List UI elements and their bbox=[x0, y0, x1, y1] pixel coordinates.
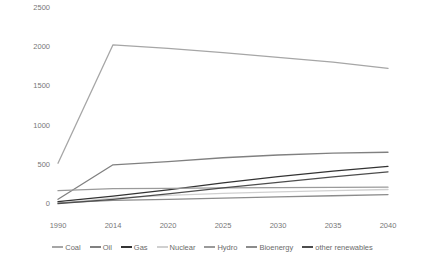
legend-item-label: Gas bbox=[134, 243, 148, 252]
line-chart: 05001000150020002500 1990201420202025203… bbox=[0, 0, 425, 262]
x-axis-tick-label: 2014 bbox=[105, 222, 122, 230]
x-axis-tick-label: 2020 bbox=[160, 222, 177, 230]
legend-item-label: Bioenergy bbox=[259, 243, 293, 252]
y-axis-tick-label: 500 bbox=[37, 161, 50, 169]
series-lines bbox=[58, 8, 388, 204]
legend-item-label: Coal bbox=[65, 243, 80, 252]
series-line-coal bbox=[58, 45, 388, 163]
legend-swatch-icon bbox=[121, 246, 132, 248]
legend-item-label: Hydro bbox=[217, 243, 237, 252]
legend-swatch-icon bbox=[204, 246, 215, 248]
x-axis-tick-label: 2035 bbox=[325, 222, 342, 230]
x-axis-tick-label: 2040 bbox=[380, 222, 397, 230]
series-line-oil bbox=[58, 152, 388, 199]
legend-swatch-icon bbox=[157, 246, 168, 248]
legend-item-gas[interactable]: Gas bbox=[121, 243, 148, 252]
y-axis-tick-label: 1000 bbox=[33, 122, 50, 130]
y-axis-tick-label: 1500 bbox=[33, 82, 50, 90]
legend-swatch-icon bbox=[302, 246, 313, 248]
legend-item-coal[interactable]: Coal bbox=[52, 243, 80, 252]
legend-swatch-icon bbox=[90, 246, 101, 248]
legend-item-hydro[interactable]: Hydro bbox=[204, 243, 237, 252]
legend-swatch-icon bbox=[246, 246, 257, 248]
legend-item-label: Oil bbox=[103, 243, 112, 252]
chart-legend: CoalOilGasNuclearHydroBioenergyother ren… bbox=[0, 240, 425, 254]
plot-area bbox=[58, 8, 388, 204]
y-axis-tick-label: 0 bbox=[46, 200, 50, 208]
y-axis-tick-label: 2500 bbox=[33, 4, 50, 12]
legend-swatch-icon bbox=[52, 246, 63, 248]
x-axis: 1990201420202025203020352040 bbox=[0, 222, 425, 234]
series-line-gas bbox=[58, 166, 388, 201]
y-axis-tick-label: 2000 bbox=[33, 43, 50, 51]
x-axis-tick-label: 2030 bbox=[270, 222, 287, 230]
legend-item-oil[interactable]: Oil bbox=[90, 243, 112, 252]
legend-item-other-renewables[interactable]: other renewables bbox=[302, 243, 373, 252]
legend-item-label: other renewables bbox=[315, 243, 373, 252]
y-axis: 05001000150020002500 bbox=[0, 0, 56, 212]
legend-item-nuclear[interactable]: Nuclear bbox=[157, 243, 196, 252]
x-axis-tick-label: 2025 bbox=[215, 222, 232, 230]
x-axis-tick-label: 1990 bbox=[50, 222, 67, 230]
legend-item-bioenergy[interactable]: Bioenergy bbox=[246, 243, 293, 252]
legend-item-label: Nuclear bbox=[170, 243, 196, 252]
